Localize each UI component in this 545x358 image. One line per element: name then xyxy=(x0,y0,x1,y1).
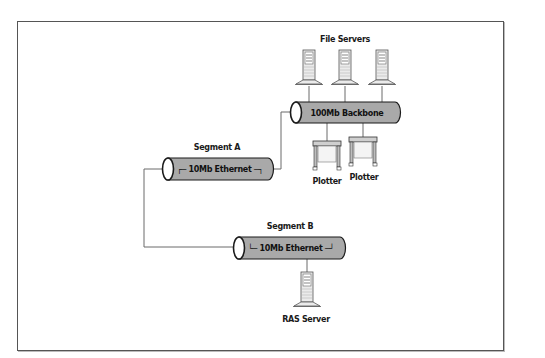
file-server-1-icon xyxy=(295,50,323,85)
file-servers-label: File Servers xyxy=(320,35,371,44)
plotter-2-label: Plotter xyxy=(349,173,378,182)
backbone-pipe: 100Mb Backbone xyxy=(291,102,401,123)
file-server-2-icon xyxy=(331,50,359,85)
ras-server-label: RAS Server xyxy=(282,315,330,324)
segment-b-name: Segment B xyxy=(267,222,314,231)
segment-a-pipe: Segment A ┌─ 10Mb Ethernet ─┐ xyxy=(163,143,274,180)
plotter-2-icon xyxy=(349,137,377,166)
segment-a-name: Segment A xyxy=(194,143,242,152)
ras-server-icon xyxy=(293,272,321,307)
segment-b-pipe: Segment B └─ 10Mb Ethernet ─┘ xyxy=(234,222,346,259)
link-segment-a-backbone xyxy=(273,112,292,169)
segment-a-label: ┌─ 10Mb Ethernet ─┐ xyxy=(177,165,263,175)
file-server-3-icon xyxy=(368,50,396,85)
network-diagram: 100Mb Backbone Segment A ┌─ 10Mb Etherne… xyxy=(0,0,545,358)
plotter-1-label: Plotter xyxy=(312,177,341,186)
segment-b-label: └─ 10Mb Ethernet ─┘ xyxy=(248,243,334,253)
backbone-label: 100Mb Backbone xyxy=(311,109,385,118)
plotter-1-icon xyxy=(313,141,341,170)
link-segment-a-segment-b xyxy=(144,169,234,247)
